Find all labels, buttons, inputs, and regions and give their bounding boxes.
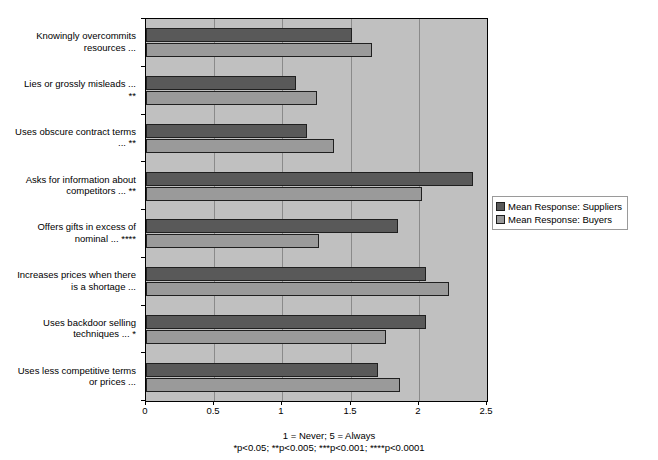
category-label: Uses obscure contract terms... ** [0,126,136,149]
bar-buyers [146,187,422,201]
y-axis-tick [141,66,145,67]
category-label-line: Uses less competitive terms [0,365,136,377]
category-label-line: or prices ... [0,376,136,388]
bar-suppliers [146,172,473,186]
y-axis-tick [141,352,145,353]
category-label-line: Offers gifts in excess of [0,221,136,233]
bar-buyers [146,378,400,392]
bar-suppliers [146,267,426,281]
category-label-line: Uses backdoor selling [0,317,136,329]
plot-inner [146,19,487,401]
bar-suppliers [146,28,352,42]
category-label-line: Increases prices when there [0,269,136,281]
category-label: Lies or grossly misleads ...** [0,78,136,101]
footnote-significance: *p<0.05; **p<0.005; ***p<0.001; ****p<0.… [0,442,658,454]
x-axis-tick-label: 0 [125,405,165,417]
bar-buyers [146,139,334,153]
bar-suppliers [146,124,307,138]
bar-buyers [146,234,319,248]
category-label: Uses backdoor sellingtechniques ... * [0,317,136,340]
footnote-scale: 1 = Never; 5 = Always [0,430,658,442]
legend-item-suppliers: Mean Response: Suppliers [496,200,622,213]
chart-footnotes: 1 = Never; 5 = Always *p<0.05; **p<0.005… [0,430,658,454]
gridline [419,19,420,401]
category-label: Knowingly overcommitsresources ... [0,30,136,53]
y-axis-tick [141,209,145,210]
x-axis-tick-label: 2 [398,405,438,417]
legend-item-buyers: Mean Response: Buyers [496,213,622,226]
bar-buyers [146,43,372,57]
bar-buyers [146,282,449,296]
category-axis-labels: Knowingly overcommitsresources ...Lies o… [0,18,140,400]
category-label-line: techniques ... * [0,328,136,340]
legend-label-suppliers: Mean Response: Suppliers [508,200,622,213]
category-label-line: Knowingly overcommits [0,30,136,42]
y-axis-tick [141,305,145,306]
bar-buyers [146,91,317,105]
bar-buyers [146,330,386,344]
category-label-line: ** [0,90,136,102]
bar-suppliers [146,219,398,233]
plot-area [145,18,488,402]
category-label: Increases prices when thereis a shortage… [0,269,136,292]
x-axis-tick-label: 2.5 [466,405,506,417]
x-axis-tick-label: 1 [261,405,301,417]
category-label-line: competitors ... ** [0,185,136,197]
category-label-line: Asks for information about [0,174,136,186]
category-label-line: nominal ... **** [0,233,136,245]
category-label: Asks for information aboutcompetitors ..… [0,174,136,197]
chart-legend: Mean Response: Suppliers Mean Response: … [492,196,628,230]
bar-suppliers [146,315,426,329]
y-axis-tick [141,161,145,162]
y-axis-tick [141,18,145,19]
category-label: Offers gifts in excess ofnominal ... ***… [0,221,136,244]
category-label: Uses less competitive termsor prices ... [0,365,136,388]
legend-swatch-icon-buyers [496,215,505,224]
category-label-line: Uses obscure contract terms [0,126,136,138]
y-axis-tick [141,114,145,115]
category-label-line: resources ... [0,42,136,54]
x-axis-tick-label: 1.5 [330,405,370,417]
bar-suppliers [146,363,378,377]
x-axis-tick-label: 0.5 [193,405,233,417]
y-axis-tick [141,257,145,258]
bar-suppliers [146,76,296,90]
bar-chart: Knowingly overcommitsresources ...Lies o… [0,0,658,460]
category-label-line: Lies or grossly misleads ... [0,78,136,90]
category-label-line: is a shortage ... [0,281,136,293]
legend-label-buyers: Mean Response: Buyers [508,213,612,226]
category-label-line: ... ** [0,137,136,149]
legend-swatch-icon-suppliers [496,202,505,211]
